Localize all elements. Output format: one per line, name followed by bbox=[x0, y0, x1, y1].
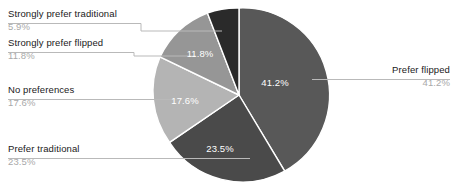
pie-chart-figure: 41.2% 23.5% 17.6% 11.8% Strongly prefer … bbox=[0, 0, 458, 189]
slice-value-strongly-prefer-flipped: 11.8% bbox=[187, 48, 214, 59]
callout-label-strongly-prefer-flipped: Strongly prefer flipped bbox=[8, 37, 103, 49]
callout-strongly-prefer-flipped: Strongly prefer flipped 11.8% bbox=[8, 37, 103, 62]
slice-value-prefer-flipped: 41.2% bbox=[261, 77, 289, 88]
callout-value-prefer-traditional: 23.5% bbox=[8, 155, 80, 168]
callout-label-prefer-traditional: Prefer traditional bbox=[8, 143, 80, 155]
callout-no-preferences: No preferences 17.6% bbox=[8, 84, 74, 109]
callout-label-prefer-flipped: Prefer flipped bbox=[392, 64, 450, 76]
callout-value-prefer-flipped: 41.2% bbox=[392, 76, 450, 89]
callout-prefer-traditional: Prefer traditional 23.5% bbox=[8, 143, 80, 168]
callout-strongly-prefer-traditional: Strongly prefer traditional 5.9% bbox=[8, 8, 117, 33]
callout-label-strongly-prefer-traditional: Strongly prefer traditional bbox=[8, 8, 117, 20]
callout-prefer-flipped: Prefer flipped 41.2% bbox=[392, 64, 450, 89]
callout-value-no-preferences: 17.6% bbox=[8, 96, 74, 109]
slice-value-no-preferences: 17.6% bbox=[171, 95, 199, 106]
callout-label-no-preferences: No preferences bbox=[8, 84, 74, 96]
callout-value-strongly-prefer-traditional: 5.9% bbox=[8, 20, 117, 33]
slice-value-prefer-traditional: 23.5% bbox=[206, 143, 234, 154]
callout-value-strongly-prefer-flipped: 11.8% bbox=[8, 49, 103, 62]
